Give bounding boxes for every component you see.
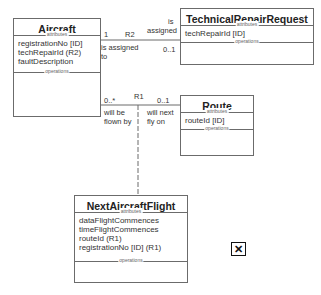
r2-from-multiplicity: 1: [104, 30, 108, 39]
attributes-label: attributes: [236, 21, 259, 27]
attribute: techRepairId (R2): [18, 48, 100, 57]
operations-label: operations: [204, 125, 229, 131]
attribute-list: dataFlightCommences timeFlightCommences …: [75, 213, 187, 252]
r1-label: R1: [134, 92, 144, 101]
r2-label: R2: [125, 30, 135, 39]
attributes-label: attributes: [206, 108, 229, 114]
operations-label: operations: [118, 257, 143, 263]
r1-from-phrase-line2: flown by: [104, 117, 132, 126]
attribute: timeFlightCommences: [79, 225, 187, 234]
class-aircraft[interactable]: Aircraft attributes registrationNo [ID] …: [13, 18, 101, 117]
r2-to-phrase-line2: assigned: [147, 26, 177, 35]
attribute-list: techRepairId [ID]: [181, 26, 313, 38]
attribute-list: routeId [ID]: [181, 113, 253, 125]
r1-from-phrase-line1: will be: [104, 108, 125, 117]
attribute: routeId (R1): [79, 234, 187, 243]
attribute-list: registrationNo [ID] techRepairId (R2) fa…: [14, 36, 100, 66]
attribute: routeId [ID]: [185, 116, 253, 125]
r1-from-multiplicity: 0..*: [104, 96, 115, 105]
attribute: registrationNo [ID]: [18, 39, 100, 48]
r1-to-phrase-line1: will next: [147, 108, 174, 117]
class-next-aircraft-flight[interactable]: NextAircraftFlight attributes dataFlight…: [74, 195, 188, 283]
r2-to-multiplicity: 0..1: [163, 45, 176, 54]
r1-to-multiplicity: 0..1: [157, 96, 170, 105]
r1-to-phrase-line2: fly on: [147, 117, 165, 126]
r2-from-phrase-line2: to: [101, 52, 107, 61]
close-icon[interactable]: ✕: [231, 242, 246, 256]
attribute: faultDescription: [18, 57, 100, 66]
class-route[interactable]: Route attributes routeId [ID] operations: [180, 95, 254, 156]
r2-to-phrase-line1: is: [168, 17, 173, 26]
attributes-label: attributes: [46, 31, 69, 37]
attribute: registrationNo [ID] (R1): [79, 243, 187, 252]
attribute: techRepairId [ID]: [185, 29, 313, 38]
attribute: dataFlightCommences: [79, 216, 187, 225]
operations-label: operations: [234, 38, 259, 44]
class-technical-repair-request[interactable]: TechnicalRepairRequest attributes techRe…: [180, 8, 314, 65]
operations-label: operations: [44, 68, 69, 74]
attributes-label: attributes: [120, 208, 143, 214]
r2-from-phrase-line1: is assigned: [101, 43, 139, 52]
